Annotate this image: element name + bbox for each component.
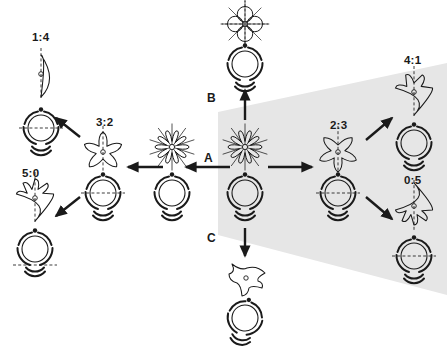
floral-diagram-group [81, 172, 125, 220]
bract-arc-inner [94, 212, 112, 216]
ovary-circle [232, 51, 258, 77]
ratio-label-form-0-5: 0:5 [404, 175, 421, 187]
floral-diagram-group [227, 43, 262, 91]
perianth-arc-upper-left [19, 233, 33, 246]
flower-center [169, 144, 174, 149]
inflorescence-axis-dot [336, 172, 340, 176]
floral-diagram-group [154, 172, 189, 220]
ratio-label-form-3-2: 3:2 [96, 117, 113, 129]
diagram-vector-layer [0, 0, 447, 348]
inflorescence-axis-dot [243, 43, 247, 47]
symmetry-ray [229, 8, 243, 22]
pathway-label-B: B [207, 92, 216, 104]
derived-form-form-1-4 [19, 48, 63, 155]
floral-diagram-group [13, 228, 57, 276]
inflorescence-axis-dot [33, 228, 37, 232]
perianth-arc-upper-right [175, 177, 189, 190]
perianth-arc-upper-left [87, 177, 101, 190]
perianth-arc-upper-right [249, 302, 265, 317]
arrow-downleft-5-0 [56, 197, 80, 216]
inflorescence-axis-dot [243, 172, 247, 176]
symmetry-ray [247, 8, 261, 22]
arrow-upleft-1-4 [56, 118, 80, 137]
bract-arc-inner [32, 147, 50, 151]
perianth-arc-upper-right [106, 177, 120, 190]
ovary-circle [159, 180, 185, 206]
derived-form-form-5-0 [13, 172, 57, 276]
figure-canvas: 1:43:25:02:34:10:5ABC [0, 0, 447, 348]
bract-arc-inner [163, 212, 181, 216]
ratio-label-form-1-4: 1:4 [32, 32, 49, 44]
inflorescence-axis-dot [412, 122, 416, 126]
perianth-arc-upper-right [248, 48, 262, 61]
symmetry-ray [229, 26, 243, 40]
pathway-label-A: A [204, 152, 213, 164]
perianth-arc-upper-left [229, 48, 243, 61]
inflorescence-axis-dot [101, 172, 105, 176]
ratio-label-form-2-3: 2:3 [330, 120, 347, 132]
flower-center [244, 276, 248, 280]
floral-diagram-group [19, 107, 63, 155]
ancestor-copy-group [150, 124, 195, 221]
inflorescence-axis-dot [246, 297, 251, 302]
perianth-arc-upper-right [38, 233, 52, 246]
perianth-arc-upper-left [156, 177, 170, 190]
derived-form-form-c-asymmetric [222, 264, 266, 348]
perianth-arc-upper-right [44, 112, 58, 125]
symmetry-ray [247, 26, 261, 40]
inflorescence-axis-dot [412, 235, 416, 239]
bract-arc-inner [236, 83, 254, 87]
bract-arc-inner [26, 268, 44, 272]
derived-form-form-3-2 [81, 126, 125, 220]
pathway-label-C: C [207, 232, 216, 244]
floral-diagram-group [222, 294, 266, 348]
ovary-circle [230, 303, 261, 334]
perianth-arc-upper-left [25, 112, 39, 125]
inflorescence-axis-dot [170, 172, 174, 176]
ratio-label-form-5-0: 5:0 [22, 168, 39, 180]
ratio-label-form-4-1: 4:1 [404, 55, 421, 67]
inflorescence-axis-dot [39, 107, 43, 111]
perianth-arc-upper-left [230, 298, 246, 313]
ovary-circle [22, 236, 48, 262]
derived-form-form-b-tetramerous [221, 0, 270, 91]
